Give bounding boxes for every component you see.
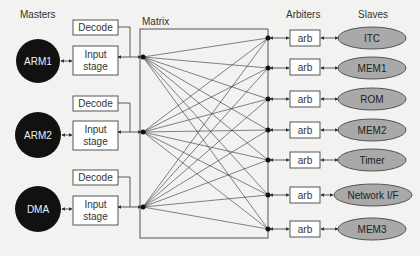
input-stage-label-1a: Input (84, 49, 106, 60)
slave-row-3: arb ROM (270, 88, 406, 110)
arbiter-label-2: arb (298, 62, 313, 73)
matrix-node-slave-5 (266, 158, 271, 163)
slave-row-5: arb Timer (270, 149, 406, 171)
decode-connector-1 (118, 27, 130, 57)
slaves-header: Slaves (358, 9, 388, 20)
crossbar-lines (143, 38, 268, 229)
slave-network-if-label: Network I/F (347, 190, 398, 201)
matrix-node-master-2 (141, 130, 146, 135)
masters-header: Masters (20, 9, 56, 20)
input-stage-label-1b: stage (83, 61, 108, 72)
slave-row-1: arb ITC (270, 27, 406, 49)
arbiter-label-6: arb (298, 190, 313, 201)
slave-row-7: arb MEM3 (270, 218, 406, 240)
bus-matrix-diagram: Masters Matrix Arbiters Slaves (0, 0, 420, 256)
slave-mem1-label: MEM1 (358, 63, 387, 74)
slave-rom-label: ROM (360, 94, 383, 105)
arbiters-header: Arbiters (286, 9, 320, 20)
decode-label-2: Decode (78, 98, 113, 109)
slave-row-4: arb MEM2 (270, 119, 406, 141)
arbiter-label-1: arb (298, 33, 313, 44)
matrix-node-master-1 (141, 55, 146, 60)
matrix-node-slave-4 (266, 128, 271, 133)
master-dma-group: DMA Decode Input stage (15, 170, 141, 232)
matrix-node-slave-7 (266, 227, 271, 232)
input-stage-label-2a: Input (84, 124, 106, 135)
matrix-box (140, 29, 268, 238)
slave-row-6: arb Network I/F (270, 184, 412, 206)
slave-timer-label: Timer (359, 155, 385, 166)
slave-itc-label: ITC (364, 33, 380, 44)
slave-row-2: arb MEM1 (270, 57, 406, 79)
slave-mem3-label: MEM3 (358, 224, 387, 235)
matrix-node-slave-1 (266, 36, 271, 41)
input-stage-label-3b: stage (83, 211, 108, 222)
arbiter-label-4: arb (298, 125, 313, 136)
decode-label-3: Decode (78, 172, 113, 183)
matrix-node-master-3 (141, 205, 146, 210)
matrix-node-slave-3 (266, 97, 271, 102)
matrix-node-slave-2 (266, 66, 271, 71)
matrix-node-slave-6 (266, 193, 271, 198)
slave-mem2-label: MEM2 (358, 125, 387, 136)
matrix-header: Matrix (142, 16, 169, 27)
decode-label-1: Decode (78, 22, 113, 33)
input-stage-label-2b: stage (83, 136, 108, 147)
master-dma-label: DMA (27, 204, 50, 215)
input-stage-label-3a: Input (84, 199, 106, 210)
master-arm2-group: ARM2 Decode Input stage (15, 96, 141, 158)
arbiter-label-3: arb (298, 94, 313, 105)
decode-connector-2 (118, 103, 130, 132)
arbiter-label-7: arb (298, 224, 313, 235)
master-arm2-label: ARM2 (24, 130, 52, 141)
decode-connector-3 (118, 177, 130, 207)
arbiter-label-5: arb (298, 155, 313, 166)
master-arm1-label: ARM1 (24, 56, 52, 67)
master-arm1-group: ARM1 Decode Input stage (16, 20, 141, 83)
